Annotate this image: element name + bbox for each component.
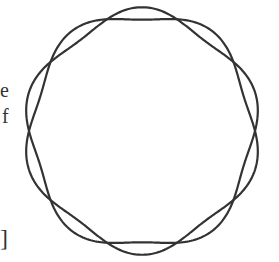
wavy-ring-diagram: [0, 0, 279, 262]
